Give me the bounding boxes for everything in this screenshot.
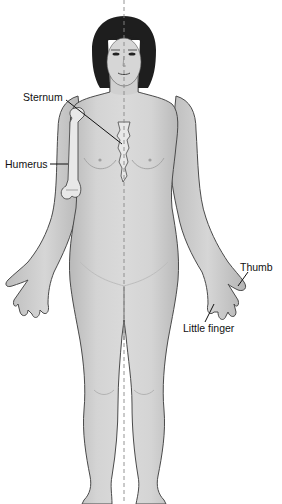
label-humerus: Humerus [5, 158, 48, 170]
label-little-finger: Little finger [183, 322, 234, 334]
anatomy-figure: Sternum Humerus Thumb Little finger [0, 0, 282, 504]
left-arm [170, 96, 246, 319]
body-illustration [0, 0, 282, 504]
label-thumb: Thumb [240, 261, 273, 273]
label-sternum: Sternum [23, 91, 63, 103]
